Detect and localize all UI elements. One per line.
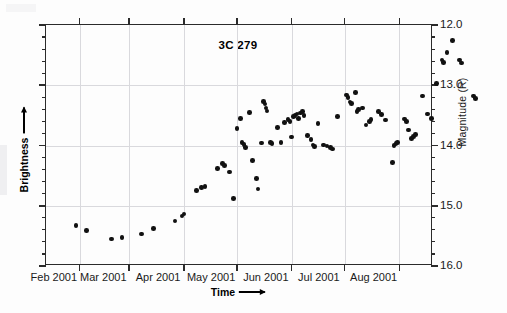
data-point: [289, 135, 294, 140]
y-axis-tick-major: [39, 84, 46, 86]
data-point: [109, 237, 114, 242]
y-axis-tick-minor: [431, 193, 435, 194]
y-axis-tick-label: 15.0: [440, 199, 462, 211]
data-point: [413, 132, 418, 137]
data-point: [250, 158, 255, 163]
data-point: [316, 121, 321, 126]
data-point: [312, 144, 317, 149]
y-axis-tick-label: 13.0: [440, 78, 462, 90]
x-axis-tick: [128, 264, 129, 271]
data-point: [296, 116, 301, 121]
data-point: [459, 61, 464, 66]
data-point: [383, 118, 388, 123]
y-axis-tick-major: [431, 24, 438, 26]
data-point: [429, 116, 434, 121]
x-axis-tick-label: Jul 2001: [298, 271, 340, 283]
y-axis-tick-minor: [42, 61, 46, 62]
y-axis-tick-major: [39, 145, 46, 147]
y-axis-tick-minor: [431, 181, 435, 182]
y-axis-tick-minor: [42, 109, 46, 110]
y-axis-tick-minor: [42, 36, 46, 37]
data-point: [265, 109, 270, 114]
y-axis-tick-major: [431, 205, 438, 207]
y-axis-tick-label: 14.0: [440, 139, 462, 151]
y-axis-tick-minor: [431, 241, 435, 242]
data-point: [182, 212, 187, 217]
gridline-horizontal: [46, 146, 431, 147]
data-point: [139, 232, 144, 237]
data-point: [335, 114, 340, 119]
data-point: [369, 117, 374, 122]
y-axis-tick-minor: [42, 217, 46, 218]
x-axis-label: Time: [211, 286, 265, 298]
data-point: [406, 128, 411, 133]
data-point: [256, 187, 261, 192]
data-point: [275, 125, 280, 130]
y-axis-tick-major: [39, 265, 46, 267]
x-axis-tick-label: May 2001: [187, 271, 235, 283]
y-axis-tick-minor: [42, 181, 46, 182]
x-axis-tick: [291, 264, 292, 271]
data-point: [346, 95, 351, 100]
data-point: [231, 196, 236, 201]
x-axis-tick: [79, 18, 80, 25]
data-point: [203, 184, 208, 189]
gridline-horizontal: [46, 85, 431, 86]
gridline-vertical: [237, 25, 238, 264]
data-point: [235, 126, 240, 131]
x-axis-tick-label: Jun 2001: [243, 271, 288, 283]
y-axis-label-left-text: Brightness: [18, 138, 30, 193]
y-axis-tick-minor: [42, 121, 46, 122]
y-axis-tick-minor: [42, 193, 46, 194]
x-axis-label-text: Time: [211, 286, 235, 298]
gridline-horizontal: [46, 206, 431, 207]
y-axis-tick-minor: [42, 73, 46, 74]
data-point: [395, 140, 400, 145]
data-point: [302, 113, 307, 118]
y-axis-tick-minor: [431, 253, 435, 254]
x-axis-tick-label: Mar 2001: [80, 271, 126, 283]
data-point: [420, 94, 425, 99]
y-axis-tick-major: [39, 205, 46, 207]
y-axis-tick-label: 16.0: [440, 259, 462, 271]
y-axis-tick-minor: [431, 121, 435, 122]
data-point: [247, 110, 252, 115]
x-axis-tick: [128, 18, 129, 25]
data-point: [279, 140, 284, 145]
y-axis-label-left: Brightness: [18, 108, 30, 193]
y-axis-tick-minor: [42, 229, 46, 230]
y-axis-tick-minor: [431, 169, 435, 170]
data-point: [445, 50, 450, 55]
x-axis-tick: [236, 18, 237, 25]
x-axis-tick-label: Aug 2001: [350, 271, 397, 283]
data-point: [349, 101, 354, 106]
y-axis-tick-minor: [431, 217, 435, 218]
data-point: [151, 226, 156, 231]
data-point: [222, 163, 227, 168]
y-axis-tick-minor: [431, 97, 435, 98]
y-axis-tick-minor: [431, 133, 435, 134]
gridline-vertical: [80, 25, 81, 264]
y-axis-tick-minor: [42, 241, 46, 242]
up-arrow-icon: [23, 108, 24, 134]
gridline-vertical: [129, 25, 130, 264]
data-point: [441, 60, 446, 65]
plot-area: [45, 24, 432, 265]
y-axis-tick-minor: [431, 229, 435, 230]
x-axis-tick: [183, 18, 184, 25]
data-point: [379, 112, 384, 117]
data-point: [353, 90, 358, 95]
data-point: [450, 38, 455, 43]
gridline-vertical: [292, 25, 293, 264]
data-point: [215, 166, 220, 171]
data-point: [404, 119, 409, 124]
gridline-vertical: [345, 25, 346, 264]
data-point: [390, 160, 395, 165]
y-axis-tick-minor: [42, 97, 46, 98]
data-point: [360, 106, 365, 111]
data-point: [434, 81, 439, 86]
figure-canvas: 3C 279 Brightness Magnitude (R) Time 12.…: [0, 0, 507, 313]
data-point: [243, 145, 248, 150]
y-axis-tick-minor: [431, 61, 435, 62]
right-arrow-icon: [239, 291, 265, 292]
